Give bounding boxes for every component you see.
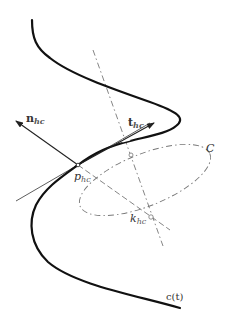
normal-label: nhc [26,112,45,126]
dashed-normal-line [78,165,170,230]
point-p-marker [76,163,80,167]
curve-c-t [32,20,181,308]
center-k-marker [149,215,153,219]
normal-vector-arrow [16,121,78,165]
center-label: khc [130,212,147,226]
tangent-label: thc [128,116,144,130]
circle-label: C [206,142,215,155]
curve-label: c(t) [166,291,184,302]
curve-geometry-diagram: nhc thc phc khc C c(t) [0,0,225,325]
osculating-circle-c [70,130,219,231]
axis-point-marker [129,153,133,157]
